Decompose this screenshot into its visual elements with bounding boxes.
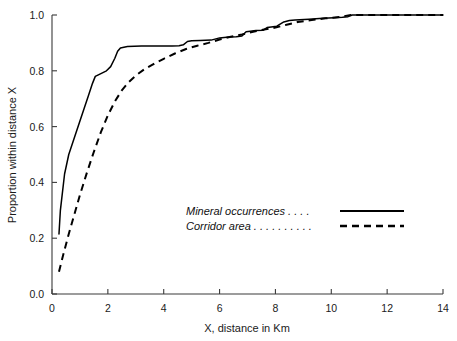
y-tick-label: 0.4	[29, 176, 44, 188]
data-series-group	[59, 15, 443, 272]
axes-group	[52, 15, 443, 294]
y-tick-label: 0.0	[29, 288, 44, 300]
y-axis-title: Proportion within distance X	[6, 86, 18, 223]
x-tick-label: 0	[49, 302, 55, 314]
x-axis-ticks: 02468101214	[49, 289, 449, 314]
x-tick-label: 2	[105, 302, 111, 314]
x-tick-label: 12	[381, 302, 393, 314]
x-tick-label: 6	[217, 302, 223, 314]
series-line-mineral-occurrences	[59, 15, 443, 234]
legend-label-1: Corridor area . . . . . . . . . .	[186, 220, 312, 232]
x-tick-label: 8	[273, 302, 279, 314]
y-tick-label: 0.8	[29, 65, 44, 77]
legend-label-0: Mineral occurrences . . . .	[186, 205, 310, 217]
chart-legend: Mineral occurrences . . . .Corridor area…	[186, 205, 404, 232]
y-tick-label: 1.0	[29, 9, 44, 21]
y-tick-label: 0.2	[29, 232, 44, 244]
y-tick-label: 0.6	[29, 121, 44, 133]
y-axis-ticks: 0.00.20.40.60.81.0	[29, 9, 57, 300]
x-tick-label: 10	[325, 302, 337, 314]
x-tick-label: 4	[161, 302, 167, 314]
x-axis-title: X, distance in Km	[204, 322, 290, 334]
x-tick-label: 14	[437, 302, 449, 314]
cumulative-distribution-chart: 02468101214 0.00.20.40.60.81.0 X, distan…	[0, 0, 457, 341]
